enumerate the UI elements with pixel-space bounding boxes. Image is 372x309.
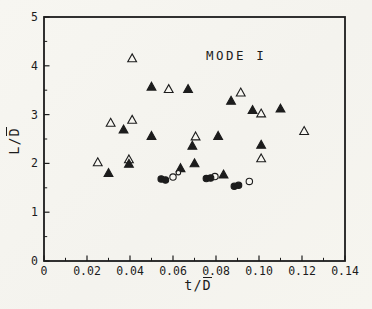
filled-triangle-marker [227,96,236,104]
x-tick-label: 0.12 [288,264,316,278]
filled-circle-marker [235,182,241,188]
y-tick-label: 1 [31,205,38,219]
scatter-plot: 00.020.040.060.080.100.120.14 012345 [0,0,372,309]
scatter-figure: 00.020.040.060.080.100.120.14 012345 MOD… [0,0,372,309]
filled-triangle-marker [188,141,197,149]
y-tick-label: 4 [31,59,38,73]
mode-annotation: MODE I [206,48,266,63]
y-axis-title: L/D [6,112,22,170]
filled-triangle-marker [119,125,128,133]
x-axis-title: t/D [178,277,218,293]
x-tick-label: 0.14 [331,264,359,278]
filled-triangle-marker [276,104,285,112]
open-triangle-marker [300,127,309,135]
y-tick-label: 0 [31,254,38,268]
filled-triangle-marker [214,131,223,139]
x-axis-title-barred-d: D [203,277,212,292]
y-tick-label: 5 [31,10,38,24]
open-triangle-marker [93,158,102,166]
x-tick-label: 0.08 [202,264,230,278]
x-tick-label: 0.02 [73,264,101,278]
y-axis-title-pre: L/ [6,136,22,154]
open-triangle-marker [128,115,137,123]
filled-triangle-marker [147,131,156,139]
x-axis-title-pre: t/ [184,277,202,293]
filled-triangle-marker [257,140,266,148]
filled-triangle-marker [184,85,193,93]
filled-circle-marker [207,175,213,181]
y-axis-title-barred-d: D [6,127,21,136]
x-tick-label: 0.10 [245,264,273,278]
x-tick-label: 0 [41,264,48,278]
open-triangle-marker [257,109,266,117]
filled-triangle-marker [219,170,228,178]
open-triangle-marker [164,85,173,93]
y-tick-label: 3 [31,108,38,122]
data-points [93,54,308,190]
open-triangle-marker [128,54,137,62]
filled-triangle-marker [104,169,113,177]
open-triangle-marker [236,88,245,96]
filled-triangle-marker [147,82,156,90]
x-tick-label: 0.04 [116,264,144,278]
open-triangle-marker [106,118,115,126]
x-tick-label: 0.06 [159,264,187,278]
filled-circle-marker [162,177,168,183]
open-triangle-marker [257,154,266,162]
y-tick-labels: 012345 [31,10,38,268]
filled-triangle-marker [190,159,199,167]
open-triangle-marker [191,132,200,140]
open-circle-marker [246,178,252,184]
x-tick-labels: 00.020.040.060.080.100.120.14 [41,264,359,278]
y-tick-label: 2 [31,156,38,170]
open-circle-marker [170,174,176,180]
open-circle-marker [176,170,180,174]
filled-triangle-marker [248,106,257,114]
